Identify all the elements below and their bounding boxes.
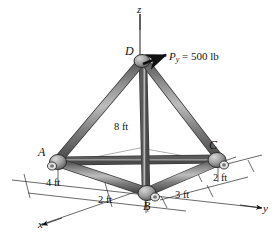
member-dc: [145, 62, 219, 158]
member-ac: [60, 159, 219, 161]
x-dimension-2ft-label: 2 ft: [98, 195, 112, 206]
y-dimension-3ft-label: 3 ft: [175, 190, 189, 201]
height-dimension-label: 8 ft: [114, 122, 128, 133]
truss-diagram-canvas: [0, 0, 274, 244]
y-axis-label: y: [263, 203, 268, 214]
joint-c-label: C: [209, 139, 217, 151]
joint-d-label: D: [125, 45, 134, 57]
joint-b-label: B: [143, 200, 150, 212]
applied-load-label: Py = 500 lb: [169, 51, 219, 64]
x-axis-label: x: [38, 219, 43, 230]
force-equals: =: [179, 50, 191, 62]
y-dimension-2ft-label: 2 ft: [213, 173, 227, 184]
truss-diagram-figure: z y x A B C D 8 ft 4 ft 2 ft 3 ft 2 ft P…: [0, 0, 274, 244]
joint-a-label: A: [38, 146, 45, 158]
member-da: [58, 62, 141, 160]
z-axis-label: z: [137, 4, 141, 15]
member-ab: [60, 163, 147, 192]
x-dimension-4ft-label: 4 ft: [46, 178, 60, 189]
force-value: 500 lb: [191, 50, 219, 62]
truss-members: [58, 62, 219, 192]
joint-a-ball: [48, 155, 67, 171]
member-db: [143, 62, 146, 191]
force-symbol: P: [169, 50, 176, 62]
